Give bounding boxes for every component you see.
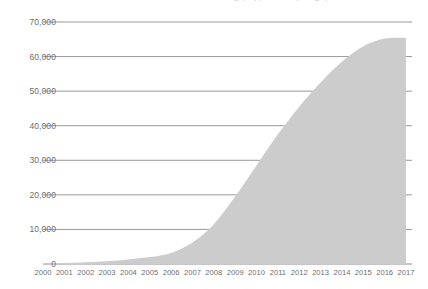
x-axis-tick-label: 2017	[398, 268, 415, 277]
y-axis-tick-label: 10,000	[0, 224, 56, 234]
x-axis-tick-label: 2008	[205, 268, 222, 277]
y-axis-tick-label: 70,000	[0, 17, 56, 27]
x-axis-tick-label: 2007	[184, 268, 201, 277]
y-axis-tick-label: 50,000	[0, 86, 56, 96]
y-axis-tick-label: 20,000	[0, 190, 56, 200]
x-axis-tick-label: 2012	[291, 268, 308, 277]
x-axis-tick-label: 2002	[77, 268, 94, 277]
chart-canvas: Cumulative total — chart heading (clippe…	[0, 0, 428, 289]
x-axis-tick-label: 2014	[333, 268, 350, 277]
x-axis-tick-label: 2009	[227, 268, 244, 277]
area-chart-plot: 010,00020,00030,00040,00050,00060,00070,…	[0, 0, 428, 289]
x-axis-tick-label: 2003	[99, 268, 116, 277]
x-axis-tick-label: 2011	[270, 268, 286, 277]
y-axis-tick-label: 30,000	[0, 155, 56, 165]
x-axis-tick-label: 2001	[56, 268, 73, 277]
x-axis-tick-label: 2004	[120, 268, 137, 277]
y-axis-tick-label: 40,000	[0, 121, 56, 131]
area-series-path	[43, 38, 406, 264]
x-axis-tick-label: 2010	[248, 268, 265, 277]
x-axis-tick-label: 2005	[141, 268, 158, 277]
x-axis-tick-label: 2006	[163, 268, 180, 277]
x-axis-tick-label: 2013	[312, 268, 329, 277]
chart-svg	[0, 0, 428, 289]
y-axis-tick-label: 60,000	[0, 52, 56, 62]
x-axis-tick-label: 2016	[376, 268, 393, 277]
x-axis-tick-label: 2015	[355, 268, 372, 277]
x-axis-tick-label: 2000	[35, 268, 52, 277]
